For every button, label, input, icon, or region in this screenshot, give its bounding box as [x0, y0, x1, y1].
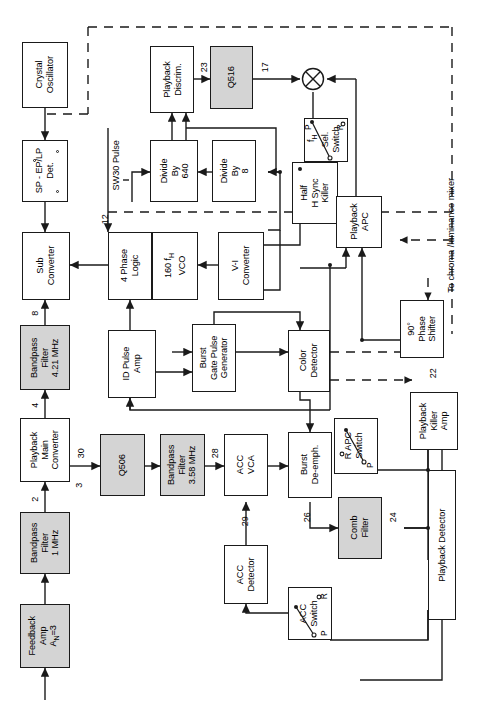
- block-label: Divide By 640: [158, 159, 190, 184]
- junction-dot-6: [278, 170, 282, 174]
- block-playback-main-converter[interactable]: Playback Main Converter: [20, 418, 70, 482]
- pin-number-23: 23: [199, 58, 210, 76]
- block-color-detector[interactable]: Color Detector: [288, 330, 330, 392]
- block-label: Bandpass Filter 1 MHz: [29, 523, 61, 563]
- pin-number-17: 17: [260, 58, 271, 76]
- block-sub-converter[interactable]: Sub Converter: [22, 232, 70, 300]
- pin-number-26: 26: [302, 508, 313, 526]
- junction-dot-4: [426, 526, 430, 530]
- block-label: 90° Phase Shifter: [406, 316, 438, 342]
- label-sw30-pulse: SW30 Pulse: [111, 127, 122, 203]
- block-feedback-amp[interactable]: Feedback Amp AN=3: [20, 604, 70, 668]
- block-acc-vca[interactable]: ACC VCA: [224, 434, 268, 496]
- acc-switch-contacts[interactable]: [286, 585, 336, 643]
- block-half-h-sync-killer[interactable]: Half H Sync Killer: [292, 162, 338, 224]
- junction-dot-2: [360, 338, 364, 342]
- block-playback-discrim[interactable]: Playback Discrim.: [150, 46, 194, 113]
- block-q516[interactable]: Q516: [210, 46, 253, 109]
- r-apc-switch-contacts[interactable]: [332, 416, 382, 476]
- block-label: Bandpass Filter 3.58 MHz: [167, 445, 199, 485]
- pin-number-4: 4: [30, 398, 41, 412]
- block-label: ACC VCA: [235, 455, 256, 474]
- block-label: Divide By 8: [218, 159, 250, 184]
- block-burst-de-emph[interactable]: Burst De-emph.: [288, 432, 332, 498]
- block-bandpass-filter-3-58[interactable]: Bandpass Filter 3.58 MHz: [160, 434, 205, 496]
- junction-dot-1: [328, 263, 332, 267]
- block-label: Playback Discrim.: [161, 61, 182, 97]
- pin-number-22: 22: [428, 364, 439, 382]
- pin-number-30: 30: [76, 444, 87, 462]
- pin-number-12: 12: [100, 210, 111, 228]
- block-bandpass-filter-1mhz[interactable]: Bandpass Filter 1 MHz: [20, 512, 70, 574]
- pin-number-2: 2: [30, 492, 41, 506]
- block-label: Half H Sync Killer: [299, 178, 331, 207]
- label-fh-input: fH: [306, 128, 320, 148]
- block-crystal-oscillator[interactable]: Crystal Oscillator: [22, 42, 68, 108]
- block-bandpass-filter-4-21[interactable]: Bandpass Filter 4.21 MHz: [20, 325, 70, 390]
- block-label: Q506: [117, 454, 128, 476]
- block-label: Burst De-emph.: [299, 445, 320, 485]
- block-4-phase-logic[interactable]: 4 Phase Logic: [108, 232, 152, 300]
- block-vi-converter[interactable]: V-I Converter: [218, 232, 264, 300]
- block-label: Playback Detector: [437, 509, 448, 582]
- block-id-pulse-amp[interactable]: ID Pulse Amp: [108, 330, 156, 398]
- block-label: 160 fH VCO: [162, 254, 187, 279]
- block-divide-by-640[interactable]: Divide By 640: [150, 140, 198, 202]
- block-sp-ep-lp-det[interactable]: SP - EP/LP Det.: [22, 140, 68, 202]
- block-burst-gate-pulse-generator[interactable]: Burst Gate Pulse Generator: [192, 324, 236, 392]
- block-label: 4 Phase Logic: [119, 249, 140, 282]
- block-label: V-I Converter: [230, 246, 251, 285]
- pin-number-3: 3: [74, 478, 85, 492]
- block-diagram-canvas: Crystal Oscillator SP - EP/LP Det. Sub C…: [0, 0, 482, 706]
- block-label: Burst Gate Pulse Generator: [198, 336, 230, 380]
- junction-dot-3: [426, 468, 430, 472]
- block-label: Playback APC: [348, 204, 369, 240]
- pin-number-29: 29: [240, 512, 251, 530]
- block-label: Playback Main Converter: [29, 430, 61, 469]
- block-label: Playback Killer Amp: [418, 403, 450, 439]
- block-playback-killer-amp[interactable]: Playback Killer Amp: [410, 392, 458, 450]
- block-playback-detector[interactable]: Playback Detector: [428, 470, 456, 620]
- block-label: Sub Converter: [35, 246, 56, 285]
- label-to-chroma-luminance-mixer: To chroma /luminance mixer: [446, 169, 457, 301]
- block-label: Comb Filter: [349, 516, 370, 540]
- block-label: ACC Detector: [235, 558, 256, 592]
- block-90-phase-shifter[interactable]: 90° Phase Shifter: [400, 300, 444, 358]
- block-label: SP - EP/LP Det.: [34, 148, 55, 193]
- pin-number-24: 24: [388, 508, 399, 526]
- block-label: ID Pulse Amp: [121, 347, 142, 381]
- block-acc-detector[interactable]: ACC Detector: [224, 545, 268, 604]
- pin-number-28: 28: [210, 444, 221, 462]
- block-divide-by-8[interactable]: Divide By 8: [212, 140, 256, 202]
- block-label: Feedback Amp AN=3: [27, 616, 63, 656]
- block-q506[interactable]: Q506: [100, 434, 145, 496]
- block-160fh-vco[interactable]: 160 fH VCO: [152, 232, 198, 300]
- block-label: Bandpass Filter 4.21 MHz: [29, 337, 61, 377]
- block-playback-apc[interactable]: Playback APC: [336, 196, 382, 248]
- block-label: Q516: [226, 66, 237, 88]
- block-comb-filter[interactable]: Comb Filter: [338, 497, 382, 559]
- pin-number-8: 8: [30, 306, 41, 320]
- block-label: Crystal Oscillator: [34, 56, 55, 93]
- block-label: Color Detector: [298, 344, 319, 378]
- junction-dot-5: [298, 167, 302, 171]
